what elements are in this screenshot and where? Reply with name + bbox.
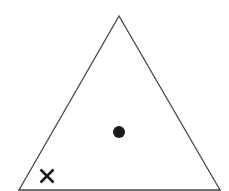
diagram-svg — [0, 0, 229, 191]
diagram-canvas — [0, 0, 229, 191]
triangle — [19, 16, 220, 190]
dot-marker — [113, 126, 125, 138]
